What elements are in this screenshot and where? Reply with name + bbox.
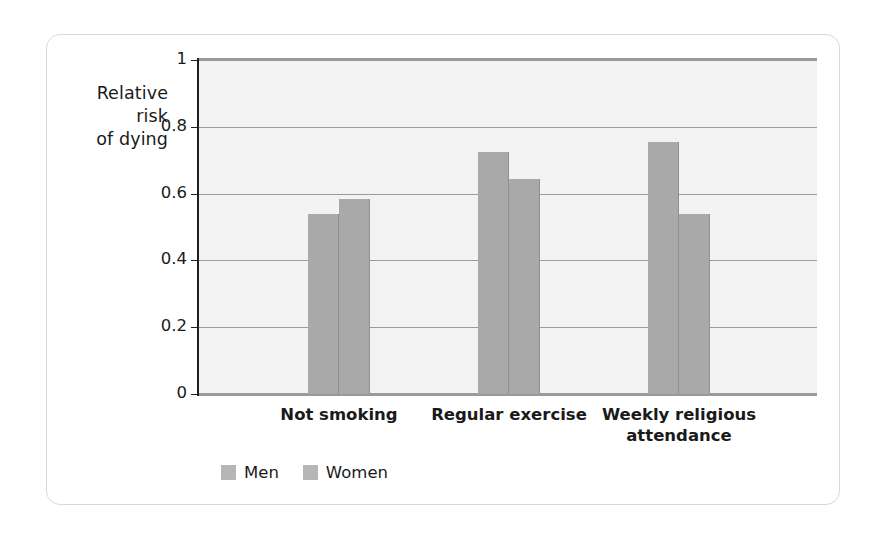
category-label-0: Not smoking [244, 404, 434, 425]
category-label-2-line-0: Weekly religious [584, 404, 774, 425]
legend: Men Women [221, 463, 388, 482]
category-label-1: Regular exercise [414, 404, 604, 425]
legend-label-men: Men [244, 463, 279, 482]
legend-item-men[interactable]: Men [221, 463, 279, 482]
bar-men-0[interactable] [308, 214, 339, 394]
plot-top-frame [199, 58, 817, 61]
category-label-2-line-1: attendance [584, 425, 774, 446]
y-axis-spine [197, 58, 199, 396]
gridline-0.8 [199, 127, 817, 128]
chart-figure: Relative risk of dying 00.20.40.60.81 No… [0, 0, 886, 533]
bar-men-1[interactable] [478, 152, 509, 394]
y-tick-label-0.2: 0.2 [143, 316, 187, 335]
category-label-1-line-0: Regular exercise [414, 404, 604, 425]
bar-women-0[interactable] [339, 199, 370, 394]
legend-item-women[interactable]: Women [303, 463, 388, 482]
legend-swatch-women [303, 465, 318, 480]
bar-men-2[interactable] [648, 142, 679, 394]
legend-label-women: Women [326, 463, 388, 482]
y-tick-label-1: 1 [143, 49, 187, 68]
category-label-0-line-0: Not smoking [244, 404, 434, 425]
bar-women-2[interactable] [679, 214, 710, 394]
y-tick-label-0.4: 0.4 [143, 249, 187, 268]
legend-swatch-men [221, 465, 236, 480]
y-tick-label-0.8: 0.8 [143, 116, 187, 135]
y-tick-label-0.6: 0.6 [143, 183, 187, 202]
y-tick-label-0: 0 [143, 383, 187, 402]
y-axis-label-line-1: Relative [56, 82, 168, 105]
bar-women-1[interactable] [509, 179, 540, 394]
category-label-2: Weekly religiousattendance [584, 404, 774, 446]
